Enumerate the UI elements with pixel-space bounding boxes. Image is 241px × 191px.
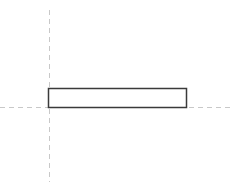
drawing-svg-root xyxy=(0,0,241,191)
rectangular-plate-outline[interactable] xyxy=(49,89,187,108)
technical-drawing-canvas xyxy=(0,0,241,191)
